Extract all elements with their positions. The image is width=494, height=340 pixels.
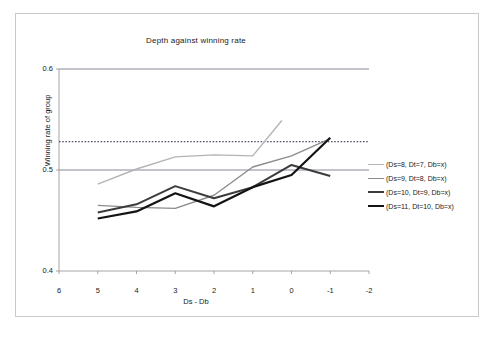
legend-item: (Ds=11, Dt=10, Db=x) bbox=[368, 199, 494, 213]
legend-line-icon bbox=[368, 205, 384, 207]
legend-item: (Ds=8, Dt=7, Db=x) bbox=[368, 157, 494, 171]
x-tick-label: 2 bbox=[204, 286, 224, 295]
legend-line-icon bbox=[368, 164, 384, 165]
legend-item: (Ds=9, Dt=8, Db=x) bbox=[368, 171, 494, 185]
x-tick-label: 6 bbox=[49, 286, 69, 295]
chart-frame: Depth against winning rate Winning rate … bbox=[15, 13, 479, 317]
legend-line-icon bbox=[368, 191, 384, 193]
x-tick-label: 5 bbox=[88, 286, 108, 295]
chart-legend: (Ds=8, Dt=7, Db=x)(Ds=9, Dt=8, Db=x)(Ds=… bbox=[368, 157, 494, 213]
x-tick-label: -1 bbox=[320, 286, 340, 295]
legend-label: (Ds=10, Dt=9, Db=x) bbox=[386, 189, 450, 196]
tick-marks bbox=[56, 69, 369, 274]
legend-line-icon bbox=[368, 178, 384, 179]
legend-item: (Ds=10, Dt=9, Db=x) bbox=[368, 185, 494, 199]
x-tick-label: -2 bbox=[359, 286, 379, 295]
x-tick-label: 4 bbox=[127, 286, 147, 295]
y-tick-label: 0.6 bbox=[27, 64, 53, 73]
legend-label: (Ds=11, Dt=10, Db=x) bbox=[386, 203, 454, 210]
legend-label: (Ds=9, Dt=8, Db=x) bbox=[386, 175, 447, 182]
y-tick-label: 0.4 bbox=[27, 266, 53, 275]
y-tick-label: 0.5 bbox=[27, 165, 53, 174]
data-series bbox=[98, 121, 331, 219]
x-tick-label: 1 bbox=[243, 286, 263, 295]
legend-label: (Ds=8, Dt=7, Db=x) bbox=[386, 161, 447, 168]
x-tick-label: 3 bbox=[165, 286, 185, 295]
x-tick-label: 0 bbox=[282, 286, 302, 295]
